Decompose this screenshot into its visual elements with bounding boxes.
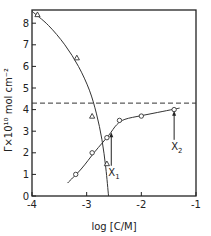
y-tick-label: 5 <box>23 83 29 94</box>
circle-point <box>105 135 109 139</box>
y-tick-label: 3 <box>23 126 29 137</box>
y-axis-label: Γ×10¹⁰ mol cm⁻² <box>3 68 14 152</box>
x-tick-label: -2 <box>136 199 146 210</box>
x-tick-label: -1 <box>191 199 201 210</box>
annotation-subscript: 2 <box>178 147 182 155</box>
annotation-label-x1: X1 <box>108 167 119 181</box>
circle-point <box>90 151 94 155</box>
x-axis-label: log [C/M] <box>91 221 136 232</box>
circle-point <box>74 172 78 176</box>
y-tick-label: 4 <box>23 104 29 115</box>
x-tick-label: -3 <box>82 199 92 210</box>
circle-point <box>139 114 143 118</box>
triangles-curve <box>32 11 109 196</box>
y-tick-label: 6 <box>23 61 29 72</box>
data-points <box>35 12 176 177</box>
annotation-subscript: 1 <box>115 173 119 181</box>
y-tick-label: 1 <box>23 169 29 180</box>
circle-point <box>117 118 121 122</box>
annotation-label-x2: X2 <box>171 141 182 155</box>
triangle-point <box>90 113 95 118</box>
y-tick-label: 0 <box>23 191 29 202</box>
y-tick-label: 7 <box>23 39 29 50</box>
y-tick-label: 2 <box>23 147 29 158</box>
chart: -4-3-2-1012345678 X1X2 log [C/M] Γ×10¹⁰ … <box>0 0 211 236</box>
triangle-point <box>74 55 79 60</box>
fitted-curves <box>32 11 180 196</box>
y-tick-label: 8 <box>23 18 29 29</box>
circles-curve <box>68 108 180 183</box>
